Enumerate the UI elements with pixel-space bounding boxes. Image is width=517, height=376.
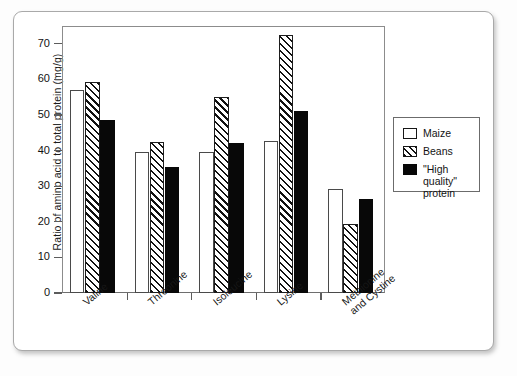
chart-plot-area: Ratio of amino acid to total protein (mg…	[14, 12, 495, 352]
chart-legend: MaizeBeans"High quality" protein	[393, 117, 480, 192]
legend-label: Maize	[423, 127, 451, 139]
bar-group	[256, 26, 321, 293]
y-axis-tick-label: 40	[16, 144, 50, 156]
y-axis-tick-label: 10	[16, 250, 50, 262]
legend-item: Beans	[403, 145, 479, 157]
bar-maize	[199, 152, 214, 293]
x-axis-tick	[191, 293, 192, 300]
bar-maize	[135, 152, 150, 293]
bar-maize	[264, 141, 279, 293]
y-axis-tick	[54, 79, 62, 80]
y-axis-tick	[54, 43, 62, 44]
legend-item: Maize	[403, 127, 479, 139]
legend-label: Beans	[423, 145, 453, 157]
y-axis-tick-label: 20	[16, 215, 50, 227]
legend-swatch-hq	[403, 164, 417, 175]
legend-swatch-beans	[403, 146, 417, 157]
y-axis-tick	[54, 257, 62, 258]
figure-card: Ratio of amino acid to total protein (mg…	[13, 11, 494, 351]
legend-item: "High quality" protein	[403, 163, 479, 199]
y-axis-tick	[54, 186, 62, 187]
y-axis-tick	[54, 292, 62, 293]
legend-swatch-maize	[403, 128, 417, 139]
bar-beans	[279, 35, 294, 293]
bar-group	[127, 26, 192, 293]
y-axis-tick-label: 60	[16, 72, 50, 84]
legend-label: "High quality" protein	[423, 163, 479, 199]
bar-beans	[343, 224, 358, 293]
y-axis-tick	[54, 150, 62, 151]
bar-maize	[328, 189, 343, 293]
bar-hq	[100, 120, 115, 293]
y-axis-tick-label: 0	[16, 286, 50, 298]
y-axis-tick	[54, 114, 62, 115]
y-axis-tick-label: 30	[16, 179, 50, 191]
y-axis-tick	[54, 221, 62, 222]
bar-group	[62, 26, 127, 293]
x-axis-tick	[256, 293, 257, 300]
bar-maize	[70, 90, 85, 293]
y-axis-tick-label: 50	[16, 108, 50, 120]
y-axis-tick-label: 70	[16, 37, 50, 49]
x-axis-tick	[320, 293, 321, 300]
bar-group	[191, 26, 256, 293]
bar-group	[320, 26, 385, 293]
bar-beans	[85, 82, 100, 293]
bar-series-layer	[62, 26, 385, 293]
bar-beans	[214, 97, 229, 294]
bar-beans	[150, 142, 165, 293]
x-axis-tick	[127, 293, 128, 300]
bar-hq	[294, 111, 309, 293]
